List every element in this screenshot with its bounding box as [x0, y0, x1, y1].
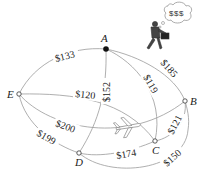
edge-label-e-c: $120 [75, 88, 96, 101]
node-c [153, 139, 157, 143]
node-label-a: A [100, 32, 108, 44]
edge-labels: $133 $185 $119 $152 $120 $200 $199 $174 [33, 47, 186, 169]
node-label-d: D [74, 156, 83, 168]
route-cost-diagram: $133 $185 $119 $152 $120 $200 $199 $174 [0, 0, 199, 178]
edge-label-e-b: $200 [54, 118, 77, 135]
node-label-e: E [6, 88, 14, 100]
node-a [103, 46, 109, 52]
node-b [183, 99, 187, 103]
node-label-b: B [190, 95, 197, 107]
node-d [77, 151, 81, 155]
airplane-icon [113, 115, 142, 139]
node-label-c: C [152, 144, 160, 156]
businessman-icon [147, 21, 169, 49]
edge-label-a-d: $152 [101, 82, 112, 102]
node-e [17, 92, 21, 96]
edge-label-d-c: $174 [115, 147, 137, 161]
thought-bubble: $$$ [159, 2, 192, 28]
graph-canvas: $133 $185 $119 $152 $120 $200 $199 $174 [0, 0, 199, 178]
edge-label-a-e: $133 [54, 48, 76, 64]
bubble-text: $$$ [169, 9, 184, 18]
